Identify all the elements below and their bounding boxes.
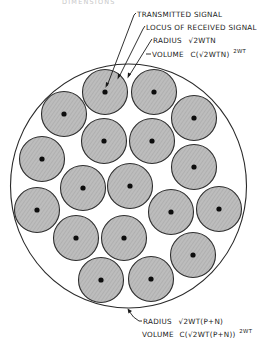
noise-sphere: [171, 233, 216, 278]
total-radius-label: RADIUS √2WT(P+N): [143, 317, 223, 326]
transmitted-signal-label: TRANSMITTED SIGNAL: [136, 10, 222, 19]
noise-sphere: [61, 166, 106, 211]
noise-volume-label: VOLUME C(√2WTN) 2WT: [152, 48, 247, 59]
noise-sphere: [108, 164, 153, 209]
locus-leader: [119, 26, 145, 77]
signal-point-icon: [73, 235, 78, 240]
signal-point-icon: [102, 89, 107, 94]
signal-point-icon: [101, 138, 106, 143]
noise-sphere: [102, 216, 147, 261]
header-text: DIMENSIONS: [62, 0, 116, 6]
signal-point-icon: [34, 207, 39, 212]
noise-sphere: [83, 70, 128, 115]
noise-sphere: [129, 257, 174, 302]
noise-radius-label: RADIUS √2WTN: [153, 36, 216, 45]
transmitted-signal-leader: [107, 13, 136, 86]
signal-point-icon: [191, 164, 196, 169]
signal-point-icon: [148, 276, 153, 281]
signal-point-icon: [190, 252, 195, 257]
noise-sphere: [79, 258, 124, 303]
signal-point-icon: [98, 277, 103, 282]
signal-point-icon: [168, 209, 173, 214]
total-radius-leader: [129, 311, 142, 321]
signal-point-icon: [216, 206, 221, 211]
noise-sphere: [197, 187, 242, 232]
signal-point-icon: [39, 156, 44, 161]
noise-sphere: [149, 190, 194, 235]
signal-point-icon: [149, 138, 154, 143]
noise-sphere: [54, 216, 99, 261]
noise-sphere: [132, 70, 177, 115]
noise-sphere: [172, 96, 217, 141]
signal-point-icon: [191, 115, 196, 120]
noise-sphere: [42, 92, 87, 137]
noise-sphere: [130, 119, 175, 164]
signal-sphere-packing-diagram: DIMENSIONS TRANSMITTED SIGNAL LOCUS OF R…: [0, 0, 272, 351]
signal-point-icon: [61, 111, 66, 116]
noise-sphere: [172, 145, 217, 190]
noise-sphere: [82, 119, 127, 164]
locus-received-signal-label: LOCUS OF RECEIVED SIGNAL: [146, 23, 257, 32]
bottom-leader-line: [128, 309, 143, 322]
noise-sphere: [20, 137, 65, 182]
signal-point-icon: [121, 235, 126, 240]
noise-sphere: [15, 188, 60, 233]
signal-point-icon: [80, 185, 85, 190]
signal-point-icon: [151, 89, 156, 94]
total-volume-label: VOLUME C(√2WT(P+N)) 2WT: [142, 328, 253, 339]
signal-point-icon: [127, 183, 132, 188]
noise-spheres: [15, 70, 242, 303]
